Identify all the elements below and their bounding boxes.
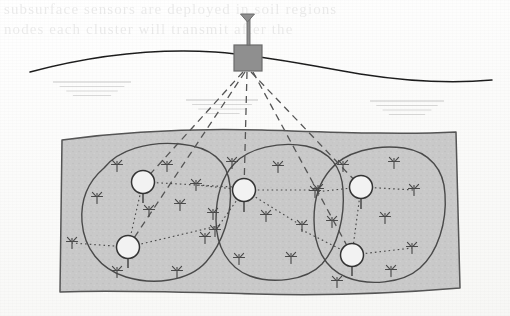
ghost-mark-left: [53, 82, 131, 96]
ch-2-1-circle: [233, 179, 256, 202]
base-station-box: [234, 45, 262, 71]
ch-1-2-circle: [117, 236, 140, 259]
diagram-canvas: [0, 0, 510, 316]
base-station-antenna-dish: [241, 14, 255, 22]
ghost-mark-right: [370, 101, 444, 115]
ch-3-2-circle: [341, 244, 364, 267]
ch-1-1-circle: [132, 171, 155, 194]
ch-3-1-circle: [350, 176, 373, 199]
ghost-marks-group: [53, 82, 444, 115]
base-station-group: [234, 14, 262, 71]
figure-underground-wsn: subsurface sensors are deployed in soil …: [0, 0, 510, 316]
